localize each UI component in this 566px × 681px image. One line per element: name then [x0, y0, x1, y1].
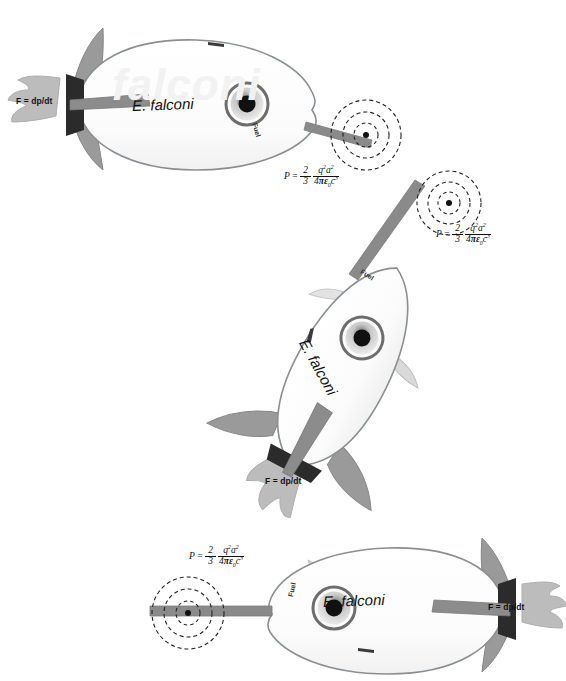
- formula-main-num: q2a2: [469, 224, 486, 234]
- target-bottom: [140, 565, 236, 661]
- formula-equals: =: [197, 551, 203, 561]
- formula-main-num: q2a2: [222, 546, 239, 556]
- formula-top: P = 2 3 q2a2 4πε0c3: [284, 166, 339, 187]
- formula-frac-coefficient: 2 3: [452, 224, 463, 245]
- target-center-dot: [446, 200, 452, 206]
- rocket-middle: F = dp/dt E. falconi Fuel: [215, 240, 465, 510]
- target-center-dot: [185, 610, 191, 616]
- force-label-bottom: F = dp/dt: [488, 602, 525, 612]
- formula-coef-num: 2: [205, 546, 216, 556]
- formula-lhs: P: [189, 551, 195, 561]
- species-label-top: E. falconi: [132, 95, 194, 114]
- rocket-bottom: F = dp/dt E. falconi Fuel: [225, 528, 566, 681]
- formula-main-num: q2a2: [317, 166, 334, 176]
- formula-frac-main: q2a2 4πε0c3: [465, 224, 491, 245]
- formula-frac-coefficient: 2 3: [300, 166, 311, 187]
- force-label-top: F = dp/dt: [16, 96, 53, 106]
- exhaust-flame: [522, 582, 566, 628]
- formula-coef-den: 3: [205, 556, 216, 567]
- formula-coef-den: 3: [300, 176, 311, 187]
- formula-lhs: P: [436, 229, 442, 239]
- formula-coef-den: 3: [452, 234, 463, 245]
- formula-lhs: P: [284, 171, 290, 181]
- target-center-dot: [363, 132, 369, 138]
- formula-equals: =: [292, 171, 298, 181]
- formula-bottom: P = 2 3 q2a2 4πε0c3: [189, 546, 244, 567]
- formula-coef-num: 2: [300, 166, 311, 176]
- diagram-canvas: falconi F = dp/dt E. falconi Fuel P = 2 …: [0, 0, 566, 681]
- formula-main-den: 4πε0c3: [313, 176, 339, 187]
- formula-frac-main: q2a2 4πε0c3: [313, 166, 339, 187]
- formula-frac-coefficient: 2 3: [205, 546, 216, 567]
- formula-main-den: 4πε0c3: [218, 556, 244, 567]
- formula-main-den: 4πε0c3: [465, 234, 491, 245]
- species-label-bottom: E. falconi: [323, 591, 385, 610]
- formula-coef-num: 2: [452, 224, 463, 234]
- formula-frac-main: q2a2 4πε0c3: [218, 546, 244, 567]
- fin-left: [207, 384, 284, 453]
- formula-middle: P = 2 3 q2a2 4πε0c3: [436, 224, 491, 245]
- formula-equals: =: [444, 229, 450, 239]
- force-label-middle: F = dp/dt: [265, 476, 302, 486]
